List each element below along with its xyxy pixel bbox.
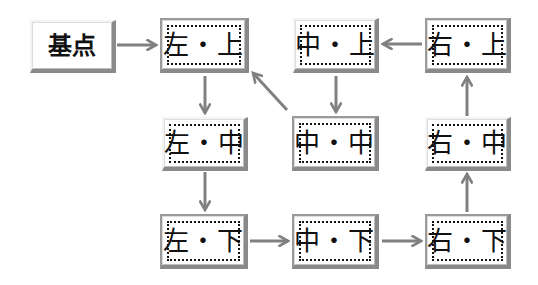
node-label: 右・中 (427, 130, 508, 156)
node-center-top[interactable]: 中・上 (293, 18, 379, 73)
node-left-top[interactable]: 左・上 (160, 18, 249, 73)
arrow-center-middle-to-left-top (253, 73, 287, 110)
node-label: 中・上 (295, 32, 376, 58)
node-label: 中・下 (294, 228, 375, 254)
node-right-bottom[interactable]: 右・下 (425, 214, 511, 269)
node-label: 中・中 (294, 130, 375, 156)
node-label: 基点 (48, 34, 96, 58)
node-right-top[interactable]: 右・上 (425, 18, 511, 73)
node-base[interactable]: 基点 (30, 20, 116, 73)
node-left-bottom[interactable]: 左・下 (160, 214, 248, 269)
node-center-middle[interactable]: 中・中 (292, 116, 379, 171)
node-right-middle[interactable]: 右・中 (425, 117, 511, 171)
node-center-bottom[interactable]: 中・下 (292, 214, 379, 269)
node-label: 左・下 (163, 228, 244, 254)
node-label: 左・上 (163, 32, 244, 58)
node-left-middle[interactable]: 左・中 (162, 117, 248, 171)
node-label: 右・上 (427, 32, 508, 58)
node-label: 左・中 (164, 130, 245, 156)
node-label: 右・下 (427, 228, 508, 254)
